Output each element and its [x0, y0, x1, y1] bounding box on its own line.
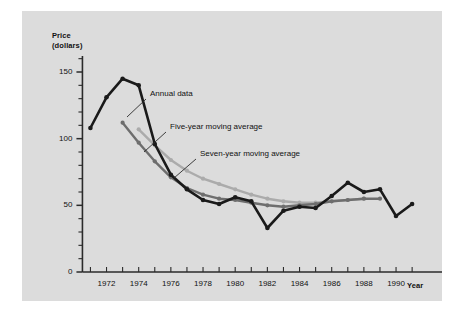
y-tick-label: 150 [46, 67, 72, 76]
x-tick-label: 1978 [188, 279, 218, 288]
x-tick-label: 1972 [92, 279, 122, 288]
annotation-leader-lines [127, 99, 196, 178]
annotation-label: Seven-year moving average [200, 149, 300, 158]
y-tick-label: 0 [46, 267, 72, 276]
annotation-label: Five-year moving average [170, 122, 262, 131]
x-tick-label: 1986 [317, 279, 347, 288]
x-tick-label: 1974 [124, 279, 154, 288]
y-tick-label: 100 [46, 134, 72, 143]
axes [76, 56, 442, 272]
x-tick-label: 1980 [220, 279, 250, 288]
annotation-label: Annual data [150, 89, 193, 98]
chart-figure: Price (dollars) Year 0501001501972197419… [22, 11, 442, 301]
x-tick-label: 1988 [349, 279, 379, 288]
y-tick-label: 50 [46, 200, 72, 209]
x-tick-label: 1990 [381, 279, 411, 288]
x-tick-label: 1982 [252, 279, 282, 288]
x-tick-label: 1984 [285, 279, 315, 288]
series-seven-year-moving-average [137, 127, 366, 205]
x-tick-label: 1976 [156, 279, 186, 288]
